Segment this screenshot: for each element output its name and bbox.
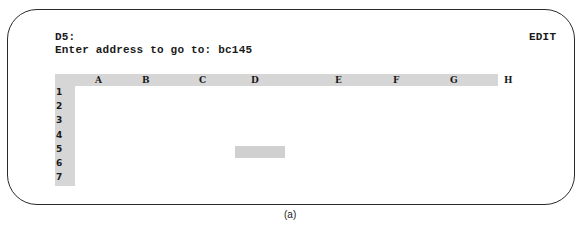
row-header-2[interactable]: 2 <box>55 100 62 112</box>
column-header-c[interactable]: C <box>199 74 206 86</box>
cell-pointer-d5[interactable] <box>235 146 285 158</box>
column-header-f[interactable]: F <box>393 74 399 86</box>
column-header-b[interactable]: B <box>142 74 150 86</box>
row-header-5[interactable]: 5 <box>55 143 62 155</box>
row-header-3[interactable]: 3 <box>55 114 62 126</box>
column-header-e[interactable]: E <box>335 74 342 86</box>
screen-frame <box>7 9 575 205</box>
row-header-6[interactable]: 6 <box>55 157 62 169</box>
goto-prompt-input[interactable]: Enter address to go to: bc145 <box>55 44 252 56</box>
cell-address-indicator: D5: <box>55 31 75 43</box>
mode-indicator: EDIT <box>529 31 556 43</box>
row-header-1[interactable]: 1 <box>55 86 62 98</box>
column-header-bar <box>55 74 498 86</box>
column-header-h[interactable]: H <box>504 74 513 86</box>
row-header-4[interactable]: 4 <box>55 129 62 141</box>
column-header-d[interactable]: D <box>251 74 259 86</box>
row-header-7[interactable]: 7 <box>55 171 62 183</box>
column-header-a[interactable]: A <box>95 74 102 86</box>
column-header-g[interactable]: G <box>450 74 458 86</box>
figure-caption: (a) <box>284 209 296 220</box>
